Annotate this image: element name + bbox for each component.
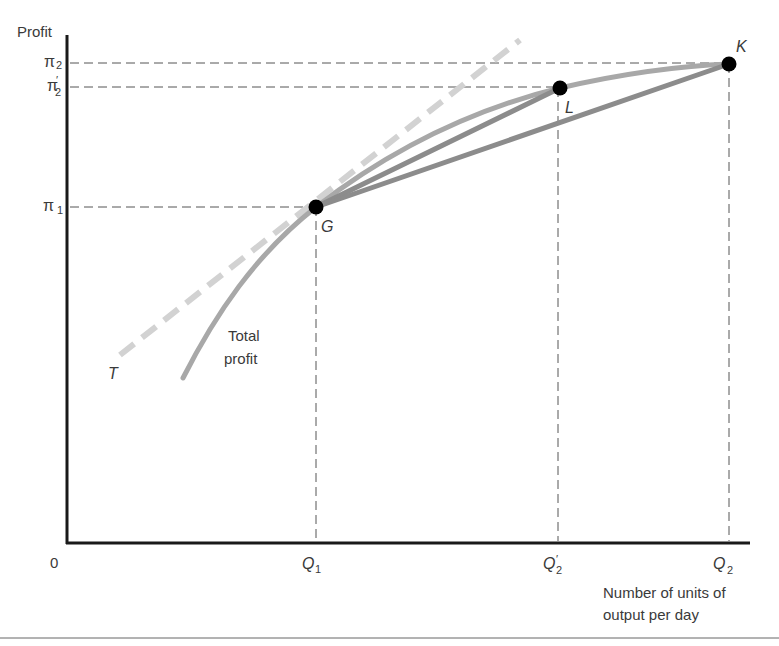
curve-label-total: Total (228, 327, 260, 344)
svg-text:Q: Q (713, 555, 725, 572)
svg-text:1: 1 (315, 563, 321, 575)
x-axis-label-line1: Number of units of (603, 584, 726, 601)
chord-GK (316, 64, 729, 207)
svg-text:π: π (44, 53, 55, 70)
point-L (553, 81, 568, 96)
profit-chart: G L K T Total profit Profit π 2 π ′ 2 π … (0, 0, 779, 646)
tangent-line-T (120, 40, 520, 355)
point-G (309, 200, 324, 215)
point-K (722, 57, 737, 72)
svg-text:′: ′ (56, 74, 58, 86)
y-tick-pi2: π 2 (44, 53, 62, 71)
svg-text:Q: Q (543, 555, 555, 572)
x-tick-q2-prime: Q ′ 2 (543, 553, 562, 576)
x-axis-label-line2: output per day (603, 606, 699, 623)
svg-text:2: 2 (55, 86, 61, 98)
total-profit-curve (183, 64, 729, 378)
x-tick-q2: Q 2 (713, 555, 733, 576)
y-tick-pi2-prime: π ′ 2 (47, 74, 61, 98)
svg-text:2: 2 (727, 564, 733, 576)
svg-text:Q: Q (302, 555, 314, 572)
guide-lines (70, 63, 729, 541)
svg-text:2: 2 (56, 59, 62, 71)
y-axis-label: Profit (17, 23, 53, 40)
x-tick-q1: Q 1 (302, 555, 321, 575)
curve-label-profit: profit (224, 350, 258, 367)
origin-label: 0 (50, 554, 58, 571)
y-tick-pi1: π 1 (43, 197, 63, 216)
svg-text:1: 1 (57, 204, 63, 216)
label-G: G (321, 218, 333, 235)
label-T: T (108, 365, 119, 382)
label-L: L (565, 99, 574, 116)
svg-text:π: π (43, 197, 54, 214)
label-K: K (736, 38, 748, 55)
svg-text:2: 2 (556, 564, 562, 576)
